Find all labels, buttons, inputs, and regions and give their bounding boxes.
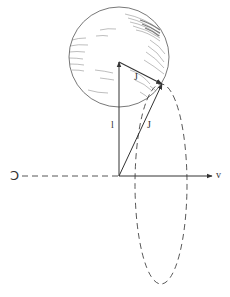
vector-diagram [0, 0, 230, 297]
label-j-diagonal: J [147, 120, 151, 130]
label-l-vertical: l [111, 120, 114, 130]
precession-ellipse [135, 84, 187, 284]
diagram-canvas: J l J v Ↄ [0, 0, 230, 297]
label-v-axis: v [216, 170, 221, 180]
label-j-sphere: J [134, 72, 138, 82]
rotation-symbol-icon: Ↄ [10, 169, 19, 182]
